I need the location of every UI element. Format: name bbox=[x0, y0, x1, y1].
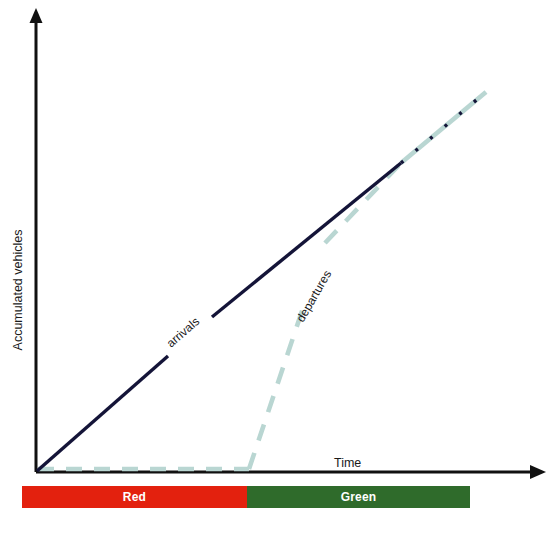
departures-series-label: departures bbox=[293, 268, 334, 325]
departures-discharge-segment-lower bbox=[249, 308, 303, 469]
y-axis-label: Accumulated vehicles bbox=[11, 230, 25, 351]
y-axis bbox=[30, 8, 43, 472]
signal-phase-red-label: Red bbox=[123, 490, 146, 504]
queue-accumulation-figure: Accumulated vehicles Time arrivals depar… bbox=[0, 0, 557, 534]
arrivals-series-label: arrivals bbox=[164, 314, 202, 350]
signal-phase-green-label: Green bbox=[341, 490, 377, 504]
x-axis-label: Time bbox=[334, 456, 361, 470]
x-axis-arrowhead-icon bbox=[530, 465, 546, 479]
y-axis-arrowhead-icon bbox=[30, 8, 43, 23]
departures-merged-segment bbox=[401, 92, 486, 163]
departures-discharge-segment-upper bbox=[325, 163, 401, 243]
x-axis bbox=[36, 465, 546, 479]
signal-phase-green: Green bbox=[247, 486, 470, 508]
arrivals-segment-lower bbox=[37, 356, 168, 471]
accumulation-plot: Accumulated vehicles Time arrivals depar… bbox=[0, 0, 557, 534]
signal-phase-red: Red bbox=[22, 486, 247, 508]
